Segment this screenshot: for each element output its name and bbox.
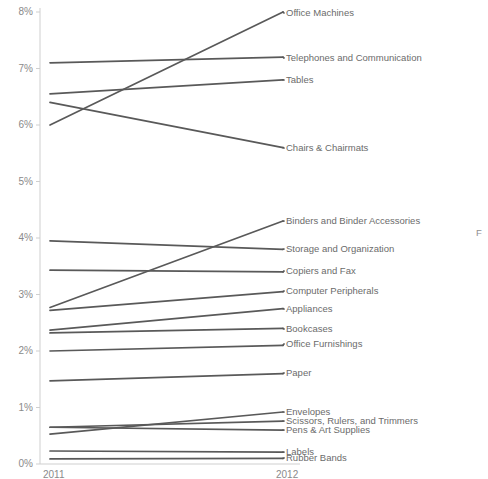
series-label[interactable]: Chairs & Chairmats: [286, 143, 368, 153]
slope-chart-plot-area: [0, 0, 488, 479]
series-line[interactable]: [50, 412, 283, 434]
series-label[interactable]: Rubber Bands: [286, 453, 347, 463]
series-label[interactable]: Paper: [286, 368, 311, 378]
series-line[interactable]: [50, 458, 283, 459]
series-line[interactable]: [50, 427, 283, 430]
series-leader-line: [283, 328, 284, 329]
series-leader-line: [283, 291, 284, 292]
series-label[interactable]: Bookcases: [286, 324, 332, 334]
series-line[interactable]: [50, 421, 283, 427]
y-tick-label: 8%: [5, 7, 33, 17]
series-label[interactable]: Office Machines: [286, 8, 354, 18]
series-label[interactable]: Telephones and Communication: [286, 53, 422, 63]
series-line[interactable]: [50, 80, 283, 94]
series-lines-group: [50, 12, 284, 459]
series-label[interactable]: Tables: [286, 75, 313, 85]
series-line[interactable]: [50, 57, 283, 63]
x-tick-label: 2011: [43, 470, 65, 479]
y-tick-label: 2%: [5, 346, 33, 356]
y-tick-label: 6%: [5, 120, 33, 130]
series-label[interactable]: Computer Peripherals: [286, 286, 378, 296]
series-line[interactable]: [50, 309, 283, 330]
series-line[interactable]: [50, 328, 283, 333]
series-line[interactable]: [50, 374, 283, 381]
slope-chart: 0%1%2%3%4%5%6%7%8% 20112012 Office Machi…: [0, 0, 488, 479]
y-tick-label: 5%: [5, 177, 33, 187]
axis-group: [36, 8, 300, 464]
x-tick-label: 2012: [276, 470, 298, 479]
series-leader-line: [283, 12, 284, 13]
series-leader-line: [283, 373, 284, 374]
series-leader-line: [283, 271, 284, 272]
series-label[interactable]: Office Furnishings: [286, 339, 362, 349]
series-line[interactable]: [50, 241, 283, 249]
series-label[interactable]: Pens & Art Supplies: [286, 425, 370, 435]
y-tick-label: 7%: [5, 64, 33, 74]
y-tick-label: 3%: [5, 290, 33, 300]
series-leader-line: [283, 344, 284, 345]
series-line[interactable]: [50, 345, 283, 351]
series-line[interactable]: [50, 451, 283, 452]
y-tick-label: 4%: [5, 233, 33, 243]
series-leader-line: [283, 57, 284, 58]
series-line[interactable]: [50, 102, 283, 147]
series-line[interactable]: [50, 270, 283, 272]
series-label[interactable]: Appliances: [286, 304, 332, 314]
y-tick-label: 0%: [5, 459, 33, 469]
series-label[interactable]: Binders and Binder Accessories: [286, 216, 420, 226]
series-label[interactable]: Copiers and Fax: [286, 266, 356, 276]
y-tick-label: 1%: [5, 403, 33, 413]
clipped-right-edge-text: F: [476, 228, 488, 238]
series-label[interactable]: Storage and Organization: [286, 244, 394, 254]
series-line[interactable]: [50, 12, 283, 125]
